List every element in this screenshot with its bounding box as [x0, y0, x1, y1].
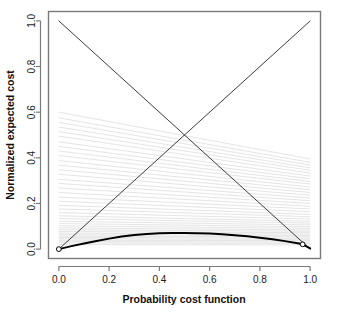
x-tick-label: 0.6	[203, 274, 217, 285]
cost-line	[59, 156, 310, 185]
cost-line	[59, 136, 310, 173]
x-tick-label: 0.0	[52, 274, 66, 285]
y-axis-title: Normalized expected cost	[4, 70, 16, 200]
x-tick-label: 1.0	[303, 274, 317, 285]
origin-marker	[56, 247, 61, 252]
y-tick-label: 0.8	[26, 59, 37, 73]
cost-line	[59, 236, 310, 237]
cost-lines-group	[59, 112, 310, 245]
x-tick-label: 0.8	[253, 274, 267, 285]
y-tick-label: 1.0	[26, 14, 37, 28]
cost-line	[59, 179, 310, 198]
cost-line	[59, 235, 310, 236]
cost-line	[59, 219, 310, 224]
cost-line	[59, 170, 310, 193]
cost-curve-figure: 0.00.20.40.60.81.0 0.00.20.40.60.81.0 Pr…	[0, 0, 345, 315]
x-tick-label: 0.4	[152, 274, 166, 285]
y-tick-label: 0.0	[26, 242, 37, 256]
right-end-marker	[300, 242, 305, 247]
plot-canvas: 0.00.20.40.60.81.0 0.00.20.40.60.81.0 Pr…	[0, 0, 345, 315]
cost-line	[59, 216, 310, 221]
y-tick-label: 0.6	[26, 105, 37, 119]
x-axis: 0.00.20.40.60.81.0	[52, 267, 318, 285]
y-axis: 0.00.20.40.60.81.0	[26, 14, 41, 257]
cost-line	[59, 188, 310, 204]
y-tick-label: 0.4	[26, 150, 37, 164]
x-tick-label: 0.2	[102, 274, 116, 285]
cost-line	[59, 127, 310, 168]
cost-line	[59, 237, 310, 238]
cost-line	[59, 193, 310, 207]
x-axis-title: Probability cost function	[122, 293, 245, 305]
y-tick-label: 0.2	[26, 196, 37, 210]
diagonal-lines-group	[59, 21, 310, 249]
